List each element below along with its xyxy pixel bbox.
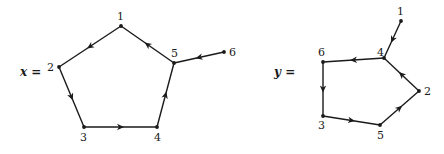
node-2 — [57, 65, 61, 69]
arrowhead-icon — [87, 42, 95, 49]
node-label-4: 4 — [377, 46, 384, 59]
arrowhead-icon — [145, 42, 153, 49]
node-label-6: 6 — [318, 46, 325, 59]
node-6 — [222, 50, 226, 54]
node-1 — [119, 24, 123, 28]
node-6 — [321, 60, 325, 64]
node-1 — [399, 19, 403, 23]
node-4 — [155, 125, 159, 129]
node-label-3: 3 — [80, 131, 87, 144]
node-label-1: 1 — [397, 5, 404, 18]
graph-y-equation-label: y = — [273, 65, 295, 79]
graph-diagram: x =123456y =123456 — [0, 0, 444, 154]
graph-x: x =123456 — [19, 10, 236, 144]
node-2 — [417, 89, 421, 93]
node-label-2: 2 — [47, 61, 54, 74]
node-label-1: 1 — [117, 10, 124, 23]
node-label-5: 5 — [377, 129, 384, 142]
graph-x-equation-label: x = — [19, 65, 41, 79]
node-label-6: 6 — [229, 46, 236, 59]
graph-y: y =123456 — [273, 5, 431, 142]
node-5 — [378, 123, 382, 127]
node-label-4: 4 — [154, 131, 161, 144]
node-label-5: 5 — [171, 47, 178, 60]
node-label-2: 2 — [424, 85, 431, 98]
node-3 — [321, 114, 325, 118]
node-label-3: 3 — [318, 119, 325, 132]
node-5 — [172, 61, 176, 65]
node-3 — [82, 125, 86, 129]
